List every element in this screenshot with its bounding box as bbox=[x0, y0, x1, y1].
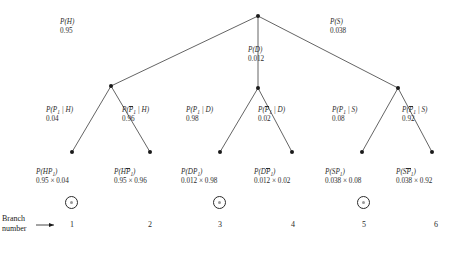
edge-label-P-P1bar-given-H: P(P1 | H) 0.96 bbox=[122, 106, 149, 124]
edge-root-to-S bbox=[258, 16, 398, 88]
branch-number-2: 2 bbox=[138, 220, 162, 229]
branch-marker-5 bbox=[357, 196, 370, 209]
node-leaf-5 bbox=[360, 150, 364, 154]
branch-number-4: 4 bbox=[281, 220, 305, 229]
node-D bbox=[256, 86, 260, 90]
branch-caption-line1: Branch bbox=[2, 214, 25, 223]
node-leaf-1 bbox=[70, 150, 74, 154]
branch-number-caption: Branch number bbox=[2, 214, 26, 233]
edge-label-P-P1-given-S: P(P1 | S) 0.08 bbox=[332, 106, 357, 124]
node-H bbox=[109, 84, 113, 88]
edge-label-P-P1-given-D: P(P1 | D) 0.98 bbox=[186, 106, 213, 124]
leaf-label-P-DP1bar: P(DP1) 0.012 × 0.02 bbox=[254, 168, 290, 186]
branch-number-1: 1 bbox=[60, 220, 84, 229]
node-leaf-3 bbox=[218, 150, 222, 154]
leaf-label-P-SP1: P(SP1) 0.038 × 0.08 bbox=[325, 168, 361, 186]
node-leaf-6 bbox=[430, 150, 434, 154]
branch-number-6: 6 bbox=[424, 220, 448, 229]
node-S bbox=[396, 86, 400, 90]
leaf-label-P-HP1: P(HP1) 0.95 × 0.04 bbox=[36, 168, 69, 186]
node-root bbox=[256, 14, 260, 18]
branch-number-arrow bbox=[36, 223, 54, 227]
edge-H-to-leaf1 bbox=[72, 86, 111, 152]
edge-label-P-P1-given-H: P(P1 | H) 0.04 bbox=[46, 106, 73, 124]
edge-label-P-P1bar-given-D: P(P1 | D) 0.02 bbox=[258, 106, 285, 124]
branch-marker-3 bbox=[213, 196, 226, 209]
leaf-label-P-SP1bar: P(SP1) 0.038 × 0.92 bbox=[396, 168, 432, 186]
node-leaf-2 bbox=[148, 150, 152, 154]
edge-root-to-H bbox=[111, 16, 258, 86]
leaf-label-P-HP1bar: P(HP1) 0.95 × 0.96 bbox=[114, 168, 147, 186]
edge-label-P-D: P(D) 0.012 bbox=[248, 46, 264, 64]
edge-label-P-S: P(S) 0.038 bbox=[330, 18, 346, 36]
edge-S-to-leaf5 bbox=[362, 88, 398, 152]
edge-label-P-P1bar-given-S: P(P1 | S) 0.92 bbox=[402, 106, 427, 124]
node-leaf-4 bbox=[290, 150, 294, 154]
edge-D-to-leaf3 bbox=[220, 88, 258, 152]
branch-number-3: 3 bbox=[208, 220, 232, 229]
branch-marker-1 bbox=[65, 196, 78, 209]
edge-label-P-H: P(H) 0.95 bbox=[60, 18, 74, 36]
branch-caption-line2: number bbox=[2, 224, 26, 233]
branch-number-5: 5 bbox=[352, 220, 376, 229]
leaf-label-P-DP1: P(DP1) 0.012 × 0.98 bbox=[181, 168, 217, 186]
